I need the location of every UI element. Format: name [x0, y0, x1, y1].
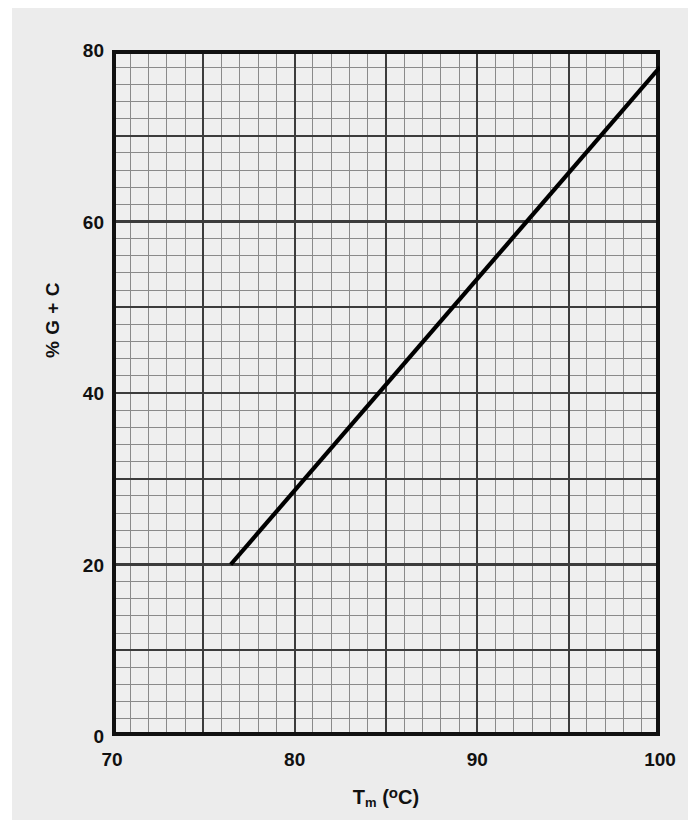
- x-axis-label-symbol: T: [353, 786, 365, 808]
- x-axis-label-container: Tm (oC): [112, 784, 660, 810]
- y-tick-80: 80: [48, 41, 104, 60]
- figure-paper-background: 0 20 40 60 80 70 80 90 100 % G + C Tm (o…: [12, 8, 688, 820]
- x-tick-100: 100: [620, 750, 700, 769]
- x-axis-label-subscript: m: [365, 795, 377, 810]
- y-tick-0: 0: [48, 727, 104, 746]
- plot-area: [112, 50, 660, 736]
- y-axis-label: % G + C: [42, 282, 63, 358]
- degree-symbol: o: [389, 784, 398, 801]
- x-axis-label-open-paren: (: [382, 786, 389, 808]
- x-axis-tick-labels: 70 80 90 100: [112, 750, 660, 776]
- x-tick-80: 80: [255, 750, 335, 769]
- y-tick-60: 60: [48, 212, 104, 231]
- x-tick-90: 90: [437, 750, 517, 769]
- y-tick-20: 20: [48, 555, 104, 574]
- y-axis-label-container: % G + C: [42, 240, 66, 400]
- figure-canvas: 0 20 40 60 80 70 80 90 100 % G + C Tm (o…: [0, 0, 700, 837]
- x-axis-label-unit: C): [398, 786, 419, 808]
- x-tick-70: 70: [72, 750, 152, 769]
- data-series-line: [112, 50, 660, 736]
- x-axis-label: Tm (oC): [353, 786, 419, 808]
